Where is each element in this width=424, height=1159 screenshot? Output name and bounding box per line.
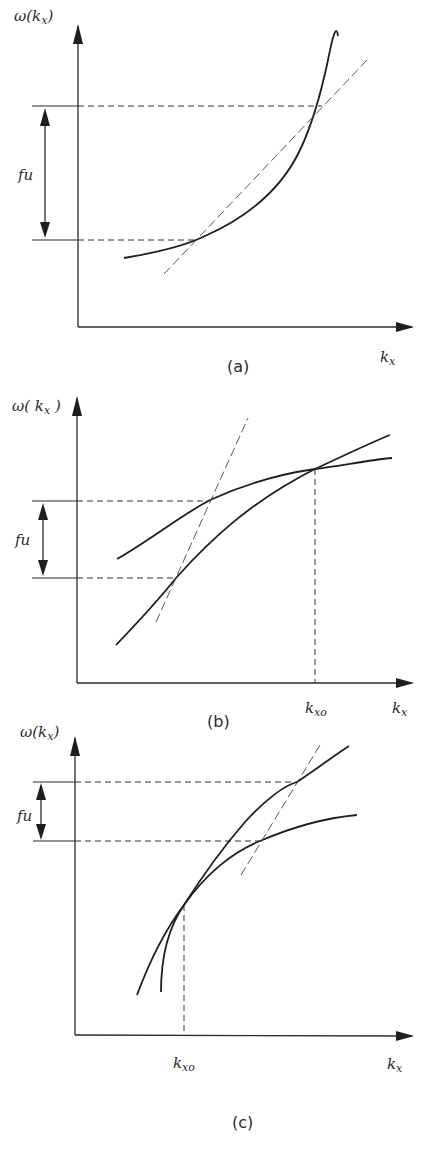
arrow-right-icon (396, 1031, 414, 1041)
panel-b: ω( kx ) fu kxo kx (b) (12, 396, 414, 731)
kxo-label: kxo (305, 699, 327, 719)
panel-caption: (b) (207, 712, 230, 731)
curve-1 (137, 746, 349, 995)
fu-interval-arrow (40, 108, 50, 238)
panel-caption: (a) (227, 357, 249, 376)
panel-c: ω(kx) fu kxo kx (c) (16, 723, 414, 1132)
arrow-up-icon (73, 24, 83, 44)
curve-2 (116, 435, 390, 645)
fu-label: fu (16, 807, 32, 825)
group-velocity-dashed-line (156, 418, 248, 622)
figure-canvas: ω(kx) kx fu (a) ω( kx ) (0, 0, 424, 1159)
x-axis-label: kx (380, 348, 396, 368)
x-axis-label: kx (387, 1055, 403, 1075)
curve-2 (161, 815, 357, 992)
y-axis (73, 24, 83, 327)
x-axis-label: kx (392, 699, 408, 719)
fu-label: fu (14, 531, 30, 549)
y-axis-label: ω( kx ) (12, 397, 61, 417)
arrow-up-icon (70, 736, 80, 756)
fu-label: fu (17, 166, 33, 184)
y-axis (70, 736, 80, 1035)
x-axis (78, 322, 414, 332)
y-axis-label: ω(kx) (14, 7, 53, 27)
dispersion-curve (124, 31, 338, 258)
panel-a: ω(kx) kx fu (a) (14, 7, 414, 376)
y-axis-label: ω(kx) (20, 723, 59, 743)
curve-1 (117, 458, 392, 559)
fu-interval-arrow (36, 783, 46, 840)
y-axis (72, 396, 82, 683)
arrow-right-icon (396, 322, 414, 332)
arrow-right-icon (396, 678, 414, 688)
panel-caption: (c) (232, 1113, 253, 1132)
x-axis (75, 1031, 414, 1041)
secant-dashed-line (164, 59, 368, 274)
x-axis (77, 678, 414, 688)
group-velocity-dashed-line (241, 745, 320, 875)
kxo-label: kxo (173, 1054, 195, 1074)
fu-interval-arrow (38, 503, 48, 576)
arrow-up-icon (72, 396, 82, 416)
